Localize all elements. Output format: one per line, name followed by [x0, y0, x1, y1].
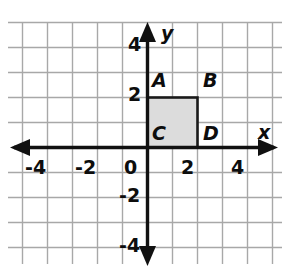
x-axis-name-label: x [258, 123, 270, 142]
y-tick-label-neg4: -4 [119, 236, 140, 255]
y-axis-name-label: y [161, 24, 173, 43]
coordinate-plane-svg [0, 0, 288, 272]
grid-horizontal-lines [8, 23, 282, 248]
x-tick-label-pos2: 2 [181, 158, 194, 177]
vertex-label-a: A [152, 71, 167, 90]
y-axis-top-arrowhead [139, 22, 156, 42]
x-tick-label-neg2: -2 [75, 158, 96, 177]
x-tick-label-pos4: 4 [231, 158, 244, 177]
x-tick-label-neg4: -4 [25, 158, 46, 177]
y-tick-label-pos2: 2 [128, 85, 141, 104]
y-axis-bottom-arrowhead [139, 246, 156, 266]
y-tick-label-pos4: 4 [128, 35, 141, 54]
vertex-label-c: C [152, 124, 166, 143]
x-axis-left-arrowhead [10, 139, 30, 156]
y-tick-label-neg2: -2 [119, 186, 140, 205]
coordinate-plane-figure: -4 -2 2 4 0 4 2 -2 -4 y x A B C D [0, 0, 288, 272]
vertex-label-d: D [203, 124, 219, 143]
vertex-label-b: B [203, 71, 217, 90]
origin-label: 0 [124, 158, 137, 177]
x-axis [10, 139, 278, 156]
